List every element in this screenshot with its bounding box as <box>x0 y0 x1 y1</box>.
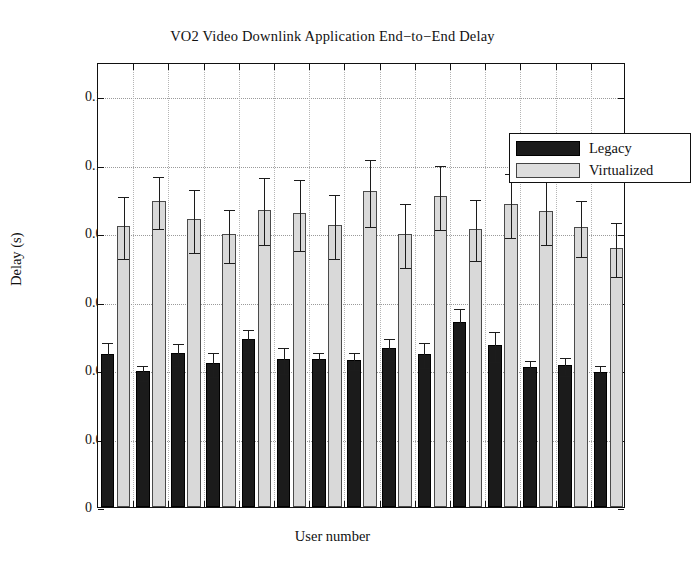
legend-swatch-legacy <box>516 141 580 156</box>
bar-legacy <box>347 360 361 507</box>
x-tick <box>239 501 240 507</box>
bar-legacy <box>242 339 256 507</box>
error-bar-line <box>143 366 144 381</box>
gridline-vertical <box>344 64 345 507</box>
error-bar-cap-lower <box>153 229 164 230</box>
error-bar-cap-upper <box>294 180 305 181</box>
error-bar-cap-lower <box>419 368 430 369</box>
bar-virtualized <box>328 225 342 507</box>
bar-virtualized <box>258 210 272 507</box>
y-tick <box>98 98 104 99</box>
chart-title: VO2 Video Downlink Application End−to−En… <box>0 28 665 45</box>
error-bar-line <box>546 181 547 245</box>
error-bar-cap-upper <box>576 201 587 202</box>
error-bar-line <box>476 200 477 261</box>
x-tick <box>556 501 557 507</box>
error-bar-line <box>600 366 601 382</box>
x-tick-top <box>168 64 169 70</box>
error-bar-cap-lower <box>384 361 395 362</box>
bar-legacy <box>418 354 432 507</box>
error-bar-cap-upper <box>349 353 360 354</box>
error-bar-cap-lower <box>102 369 113 370</box>
x-tick-top <box>204 64 205 70</box>
error-bar-cap-upper <box>454 309 465 310</box>
legend-label-virtualized: Virtualized <box>589 163 653 178</box>
error-bar-line <box>495 332 496 361</box>
y-tick-right <box>618 509 624 510</box>
error-bar-cap-upper <box>118 197 129 198</box>
bar-virtualized <box>434 196 448 507</box>
error-bar-line <box>300 180 301 251</box>
gridline-vertical <box>204 64 205 507</box>
chart-legend: Legacy Virtualized <box>509 133 691 183</box>
bar-virtualized <box>610 248 624 507</box>
bar-virtualized <box>574 227 588 507</box>
error-bar-cap-lower <box>329 259 340 260</box>
bar-virtualized <box>152 201 166 507</box>
error-bar-cap-upper <box>153 177 164 178</box>
x-tick <box>450 501 451 507</box>
x-tick <box>309 501 310 507</box>
x-tick <box>591 501 592 507</box>
error-bar-cap-lower <box>173 366 184 367</box>
error-bar-cap-upper <box>189 190 200 191</box>
legend-swatch-virtualized <box>516 163 580 178</box>
gridline-vertical <box>591 64 592 507</box>
y-axis-title: Delay (s) <box>8 232 25 286</box>
gridline-vertical <box>274 64 275 507</box>
x-tick-top <box>450 64 451 70</box>
bar-legacy <box>558 365 572 507</box>
error-bar-cap-upper <box>102 343 113 344</box>
error-bar-cap-upper <box>173 344 184 345</box>
x-tick <box>133 501 134 507</box>
error-bar-cap-upper <box>560 358 571 359</box>
x-tick-top <box>520 64 521 70</box>
bar-virtualized <box>504 204 518 507</box>
error-bar-line <box>424 343 425 368</box>
error-bar-cap-upper <box>611 223 622 224</box>
gridline-vertical <box>239 64 240 507</box>
error-bar-cap-lower <box>454 339 465 340</box>
error-bar-line <box>264 178 265 245</box>
x-tick-top <box>485 64 486 70</box>
x-tick <box>344 501 345 507</box>
error-bar-line <box>108 343 109 368</box>
error-bar-cap-upper <box>489 332 500 333</box>
error-bar-cap-lower <box>243 352 254 353</box>
error-bar-cap-upper <box>470 200 481 201</box>
error-bar-line <box>616 223 617 277</box>
bar-legacy <box>312 359 326 507</box>
error-bar-line <box>229 210 230 263</box>
error-bar-line <box>213 353 214 377</box>
error-bar-cap-upper <box>224 210 235 211</box>
legend-item-legacy: Legacy <box>516 138 684 158</box>
bar-virtualized <box>187 219 201 507</box>
plot-area: Legacy Virtualized <box>97 63 625 508</box>
error-bar-cap-lower <box>400 268 411 269</box>
x-tick-top <box>556 64 557 70</box>
error-bar-line <box>248 330 249 352</box>
legend-item-virtualized: Virtualized <box>516 160 684 180</box>
x-tick-top <box>239 64 240 70</box>
x-tick <box>520 501 521 507</box>
error-bar-cap-upper <box>313 353 324 354</box>
error-bar-cap-lower <box>208 377 219 378</box>
error-bar-line <box>354 353 355 370</box>
error-bar-line <box>335 195 336 259</box>
y-tick <box>98 167 104 168</box>
gridline-vertical <box>168 64 169 507</box>
error-bar-cap-lower <box>611 277 622 278</box>
gridline-vertical <box>450 64 451 507</box>
gridline-vertical <box>415 64 416 507</box>
error-bar-cap-upper <box>595 366 606 367</box>
bar-virtualized <box>222 234 236 507</box>
x-tick-top <box>309 64 310 70</box>
error-bar-cap-lower <box>294 251 305 252</box>
x-tick-top <box>415 64 416 70</box>
error-bar-cap-lower <box>365 227 376 228</box>
error-bar-cap-upper <box>208 353 219 354</box>
bar-legacy <box>488 345 502 507</box>
error-bar-cap-lower <box>349 370 360 371</box>
bar-legacy <box>206 363 220 507</box>
